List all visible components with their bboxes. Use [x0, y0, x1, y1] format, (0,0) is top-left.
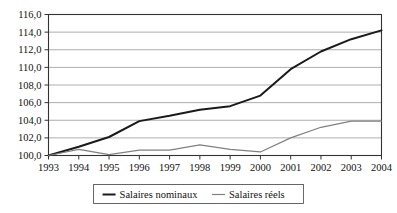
legend-label-nominaux: Salaires nominaux — [120, 189, 199, 200]
x-axis-tick-label: 2002 — [310, 162, 331, 173]
y-axis-tick-label: 104,0 — [18, 115, 42, 126]
x-axis-tick-label: 2004 — [371, 162, 393, 173]
x-axis-tick-label: 1996 — [129, 162, 150, 173]
y-axis-tick-label: 100,0 — [18, 150, 42, 161]
x-axis-tick-label: 2001 — [280, 162, 301, 173]
y-axis-tick-label: 116,0 — [18, 9, 41, 20]
y-axis-tick-label: 102,0 — [18, 132, 42, 143]
x-axis-tick-label: 2000 — [250, 162, 271, 173]
y-axis-tick-label: 112,0 — [18, 44, 41, 55]
x-axis-tick-label: 1999 — [220, 162, 241, 173]
x-axis-tick-label: 1993 — [38, 162, 59, 173]
x-axis-tick-label: 2003 — [341, 162, 362, 173]
x-axis-tick-label: 1997 — [159, 162, 180, 173]
x-axis-tick-label: 1995 — [99, 162, 120, 173]
legend-label-reels: Salaires réels — [229, 189, 285, 200]
y-axis-tick-label: 114,0 — [18, 27, 41, 38]
x-axis-tick-label: 1998 — [189, 162, 210, 173]
y-axis-tick-label: 106,0 — [18, 97, 42, 108]
chart-figure: 100,0102,0104,0106,0108,0110,0112,0114,0… — [0, 0, 397, 213]
y-axis-tick-label: 108,0 — [18, 80, 42, 91]
line-chart: 100,0102,0104,0106,0108,0110,0112,0114,0… — [0, 0, 397, 213]
x-axis-tick-label: 1994 — [68, 162, 90, 173]
y-axis-tick-label: 110,0 — [18, 62, 41, 73]
